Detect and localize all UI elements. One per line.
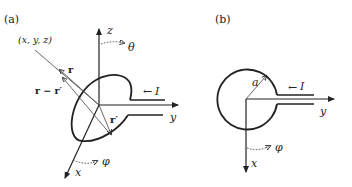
panel-b: (b) a y x φ ← I bbox=[215, 13, 334, 172]
r-minus-r-prime-label: r − r′ bbox=[35, 85, 63, 96]
current-label: I bbox=[154, 85, 160, 98]
phi-label: φ bbox=[275, 141, 283, 154]
current-arrow-icon: ← bbox=[143, 85, 152, 98]
y-axis-label: y bbox=[319, 105, 327, 118]
panel-a-label: (a) bbox=[4, 13, 19, 26]
panel-b-label: (b) bbox=[215, 13, 231, 26]
r-prime-label: r′ bbox=[110, 114, 118, 125]
panel-a: (a) (x, y, z) r r − r′ r′ z y x θ φ ← I bbox=[4, 13, 178, 179]
r-label: r bbox=[68, 64, 74, 75]
y-axis-label: y bbox=[169, 111, 177, 124]
theta-label: θ bbox=[128, 41, 135, 54]
x-axis-label: x bbox=[251, 157, 258, 170]
current-label: I bbox=[299, 80, 305, 93]
current-arrow-icon: ← bbox=[288, 81, 297, 94]
figure-canvas: (a) (x, y, z) r r − r′ r′ z y x θ φ ← I … bbox=[0, 0, 352, 187]
phi-label: φ bbox=[102, 155, 110, 168]
point-label: (x, y, z) bbox=[18, 34, 52, 45]
current-loop bbox=[72, 75, 132, 141]
phi-arc bbox=[73, 160, 97, 163]
z-axis-label: z bbox=[106, 24, 113, 37]
theta-arc bbox=[101, 42, 124, 44]
x-axis-label: x bbox=[75, 166, 82, 179]
radius-label: a bbox=[252, 76, 259, 89]
phi-arc bbox=[247, 146, 270, 150]
vector-r bbox=[60, 70, 99, 105]
